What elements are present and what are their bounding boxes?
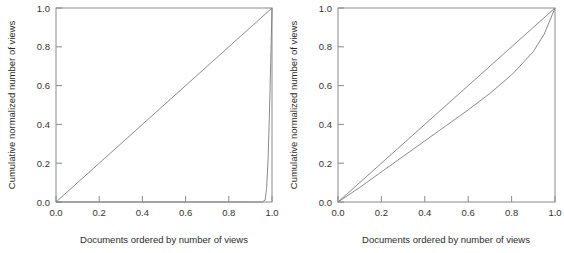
y-tick-marks-right [338, 8, 344, 202]
x-tick-labels-left: 0.0 0.2 0.4 0.6 0.8 1.0 [49, 207, 278, 218]
y-tick-label: 0.4 [319, 119, 332, 130]
x-tick-label: 0.4 [418, 207, 431, 218]
y-tick-label: 0.0 [37, 197, 50, 208]
chart-panel-right: 0.0 0.2 0.4 0.6 0.8 1.0 0.0 0.2 0.4 0.6 … [282, 0, 564, 253]
y-tick-label: 0.8 [319, 41, 332, 52]
x-tick-label: 0.8 [222, 207, 235, 218]
x-tick-marks-left [56, 196, 272, 202]
x-tick-label: 1.0 [265, 207, 278, 218]
x-tick-label: 0.6 [462, 207, 475, 218]
y-axis-title-left: Cumulative normalized number of views [6, 21, 17, 190]
y-tick-label: 0.2 [319, 158, 332, 169]
x-tick-label: 0.4 [136, 207, 149, 218]
y-tick-label: 0.4 [37, 119, 50, 130]
x-tick-label: 0.0 [49, 207, 62, 218]
x-axis-title-left: Documents ordered by number of views [80, 234, 248, 245]
y-tick-label: 0.8 [37, 41, 50, 52]
x-tick-label: 1.0 [548, 207, 561, 218]
y-axis-title-right: Cumulative normalized number of views [288, 21, 299, 190]
x-axis-title-right: Documents ordered by number of views [362, 234, 530, 245]
equality-line-right [338, 8, 555, 202]
chart-svg-left: 0.0 0.2 0.4 0.6 0.8 1.0 0.0 0.2 0.4 0.6 … [0, 0, 282, 253]
y-tick-label: 0.6 [319, 80, 332, 91]
y-tick-marks-left [56, 8, 62, 202]
y-tick-label: 0.2 [37, 158, 50, 169]
y-tick-labels-left: 0.0 0.2 0.4 0.6 0.8 1.0 [37, 3, 50, 208]
x-tick-label: 0.6 [179, 207, 192, 218]
x-tick-marks-right [338, 196, 555, 202]
lorenz-curve-figure: 0.0 0.2 0.4 0.6 0.8 1.0 0.0 0.2 0.4 0.6 … [0, 0, 564, 253]
y-tick-label: 1.0 [319, 3, 332, 14]
equality-line-left [56, 8, 272, 202]
x-tick-label: 0.0 [331, 207, 344, 218]
x-tick-label: 0.8 [505, 207, 518, 218]
x-tick-label: 0.2 [375, 207, 388, 218]
x-tick-labels-right: 0.0 0.2 0.4 0.6 0.8 1.0 [331, 207, 561, 218]
chart-panel-left: 0.0 0.2 0.4 0.6 0.8 1.0 0.0 0.2 0.4 0.6 … [0, 0, 282, 253]
chart-svg-right: 0.0 0.2 0.4 0.6 0.8 1.0 0.0 0.2 0.4 0.6 … [282, 0, 564, 253]
y-tick-label: 0.6 [37, 80, 50, 91]
y-tick-label: 0.0 [319, 197, 332, 208]
y-tick-label: 1.0 [37, 3, 50, 14]
x-tick-label: 0.2 [93, 207, 106, 218]
y-tick-labels-right: 0.0 0.2 0.4 0.6 0.8 1.0 [319, 3, 332, 208]
